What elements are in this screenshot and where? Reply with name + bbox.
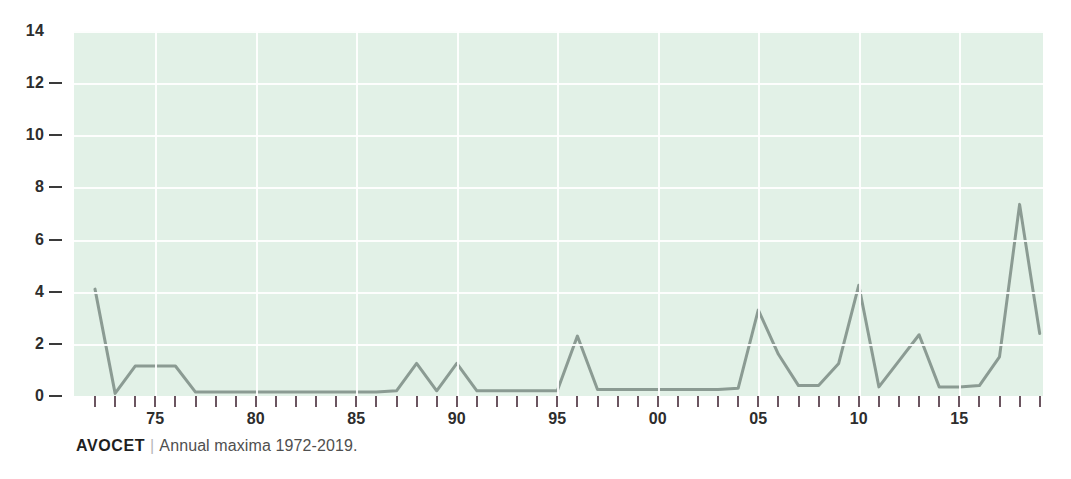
x-tick-mark (777, 396, 779, 407)
x-tick-mark (677, 396, 679, 407)
x-tick-mark (556, 396, 558, 407)
x-axis: 758085909500051015 (74, 396, 1043, 441)
y-tick-label: 2 (35, 335, 44, 353)
x-tick-mark (1019, 396, 1021, 407)
x-tick-mark (697, 396, 699, 407)
x-tick-label: 05 (749, 410, 767, 428)
x-tick-mark (757, 396, 759, 407)
gridline-vertical (155, 31, 157, 396)
x-tick-mark (375, 396, 377, 407)
x-tick-mark (1039, 396, 1041, 407)
x-tick-label: 00 (649, 410, 667, 428)
x-tick-mark (918, 396, 920, 407)
x-tick-mark (878, 396, 880, 407)
x-tick-mark (516, 396, 518, 407)
x-tick-mark (597, 396, 599, 407)
y-tick-label: 4 (35, 283, 44, 301)
x-tick-mark (94, 396, 96, 407)
x-tick-mark (838, 396, 840, 407)
y-tick-label: 6 (35, 231, 44, 249)
x-tick-mark (275, 396, 277, 407)
x-tick-mark (154, 396, 156, 407)
x-tick-mark (476, 396, 478, 407)
x-tick-mark (717, 396, 719, 407)
x-tick-mark (114, 396, 116, 407)
y-tick-mark (49, 395, 62, 397)
gridline-vertical (959, 31, 961, 396)
y-tick-label: 14 (26, 22, 44, 40)
x-tick-label: 10 (850, 410, 868, 428)
y-tick-mark (49, 186, 62, 188)
x-tick-mark (938, 396, 940, 407)
x-tick-mark (898, 396, 900, 407)
y-axis: 02468101214 (0, 0, 74, 479)
x-tick-mark (536, 396, 538, 407)
series-polyline (95, 204, 1040, 393)
chart-figure: 02468101214 758085909500051015 AVOCET|An… (0, 0, 1071, 479)
x-tick-mark (416, 396, 418, 407)
x-tick-mark (355, 396, 357, 407)
y-tick-mark (49, 239, 62, 241)
caption-description: Annual maxima 1972-2019. (159, 437, 357, 454)
gridline-vertical (557, 31, 559, 396)
x-tick-mark (235, 396, 237, 407)
gridline-vertical (457, 31, 459, 396)
x-tick-mark (255, 396, 257, 407)
x-tick-mark (798, 396, 800, 407)
x-tick-mark (818, 396, 820, 407)
x-tick-label: 80 (247, 410, 265, 428)
x-tick-mark (215, 396, 217, 407)
x-tick-label: 15 (950, 410, 968, 428)
y-tick-mark (49, 82, 62, 84)
x-tick-mark (496, 396, 498, 407)
y-tick-label: 8 (35, 178, 44, 196)
x-tick-mark (958, 396, 960, 407)
x-tick-mark (617, 396, 619, 407)
x-tick-label: 90 (448, 410, 466, 428)
y-tick-mark (49, 343, 62, 345)
x-tick-label: 85 (347, 410, 365, 428)
gridline-vertical (658, 31, 660, 396)
gridline-vertical (256, 31, 258, 396)
x-tick-mark (657, 396, 659, 407)
caption-separator: | (145, 437, 159, 454)
y-tick-label: 0 (35, 387, 44, 405)
x-tick-mark (858, 396, 860, 407)
x-tick-mark (295, 396, 297, 407)
x-tick-mark (315, 396, 317, 407)
gridline-vertical (758, 31, 760, 396)
x-tick-mark (999, 396, 1001, 407)
x-tick-mark (174, 396, 176, 407)
x-tick-mark (456, 396, 458, 407)
x-tick-label: 95 (548, 410, 566, 428)
x-tick-mark (737, 396, 739, 407)
x-tick-mark (195, 396, 197, 407)
x-tick-mark (978, 396, 980, 407)
gridline-vertical (859, 31, 861, 396)
x-tick-mark (335, 396, 337, 407)
y-tick-mark (49, 291, 62, 293)
caption: AVOCET|Annual maxima 1972-2019. (76, 437, 357, 455)
x-tick-mark (134, 396, 136, 407)
gridline-vertical (356, 31, 358, 396)
caption-species-label: AVOCET (76, 437, 145, 454)
plot-panel (74, 31, 1043, 396)
x-tick-mark (637, 396, 639, 407)
y-tick-mark (49, 134, 62, 136)
y-tick-label: 10 (26, 126, 44, 144)
x-tick-mark (576, 396, 578, 407)
x-tick-label: 75 (146, 410, 164, 428)
x-tick-mark (436, 396, 438, 407)
y-tick-label: 12 (26, 74, 44, 92)
x-tick-mark (396, 396, 398, 407)
